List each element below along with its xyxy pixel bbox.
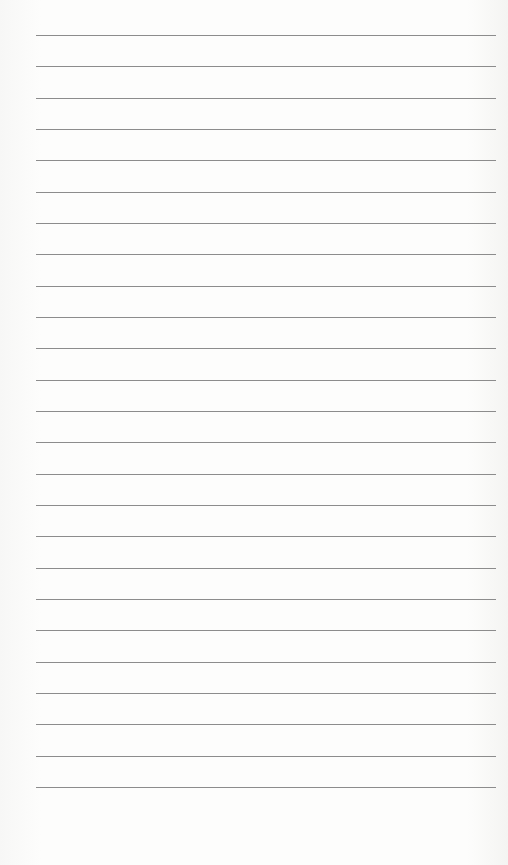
ruled-line [36, 192, 496, 193]
lined-paper [0, 0, 508, 865]
ruled-line [36, 223, 496, 224]
ruled-line [36, 599, 496, 600]
ruled-line [36, 662, 496, 663]
ruled-line [36, 724, 496, 725]
ruled-line [36, 286, 496, 287]
ruled-line [36, 66, 496, 67]
ruled-line [36, 568, 496, 569]
ruled-line [36, 160, 496, 161]
ruled-line [36, 35, 496, 36]
ruled-line [36, 411, 496, 412]
ruled-line [36, 380, 496, 381]
ruled-line [36, 693, 496, 694]
ruled-line [36, 756, 496, 757]
ruled-line [36, 505, 496, 506]
ruled-line [36, 98, 496, 99]
ruled-line [36, 254, 496, 255]
ruled-line [36, 787, 496, 788]
ruled-line [36, 317, 496, 318]
ruled-line [36, 348, 496, 349]
ruled-line [36, 442, 496, 443]
ruled-line [36, 630, 496, 631]
ruled-line [36, 536, 496, 537]
ruled-line [36, 474, 496, 475]
ruled-line [36, 129, 496, 130]
